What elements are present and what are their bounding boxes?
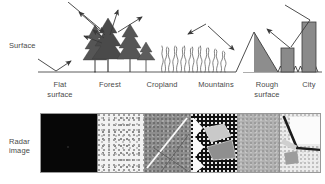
cropland-crops [162,46,226,72]
caption-line-1: Rough [256,80,279,89]
radar-panel-flat-surface [41,114,97,172]
radar-label-line-2: image [9,146,30,155]
cropland-field-lines [145,114,190,172]
caption-line-2: surface [254,90,279,99]
radar-label-line-1: Radar [9,137,30,146]
city-street-lines [280,114,320,172]
radar-backscatter-figure: Surface [0,0,325,184]
column-captions: Flat surface Forest Cropland Mountains R… [36,80,324,104]
caption-mountains: Mountains [188,80,244,90]
mountain-incident-arrow [188,24,234,50]
speckle-dot [67,146,69,148]
caption-line-1: Forest [99,80,121,89]
surface-row-label: Surface [9,41,36,50]
caption-flat-surface: Flat surface [36,80,84,99]
caption-line-1: Mountains [198,80,234,89]
caption-line-1: Flat [54,80,67,89]
radar-panel-cropland [144,114,190,172]
caption-city: City [292,80,325,90]
mountain-layover-shapes [191,114,237,172]
radar-panel-forest [97,114,144,172]
caption-line-2: surface [47,90,72,99]
forest-trees [83,18,155,72]
radar-image-row-label: Radar image [9,137,30,155]
flat-surface-specular-arrows [38,59,71,71]
caption-forest: Forest [86,80,134,90]
caption-cropland: Cropland [136,80,188,90]
caption-line-1: City [302,80,315,89]
radar-panel-rough-surface [237,114,279,172]
surface-scene [38,2,322,76]
caption-rough-surface: Rough surface [244,80,290,99]
radar-image-strip [40,113,321,173]
mountain-peak [188,32,278,72]
city-buildings [281,22,316,72]
radar-panel-mountains [190,114,237,172]
caption-line-1: Cropland [146,80,177,89]
radar-panel-city [279,114,320,172]
